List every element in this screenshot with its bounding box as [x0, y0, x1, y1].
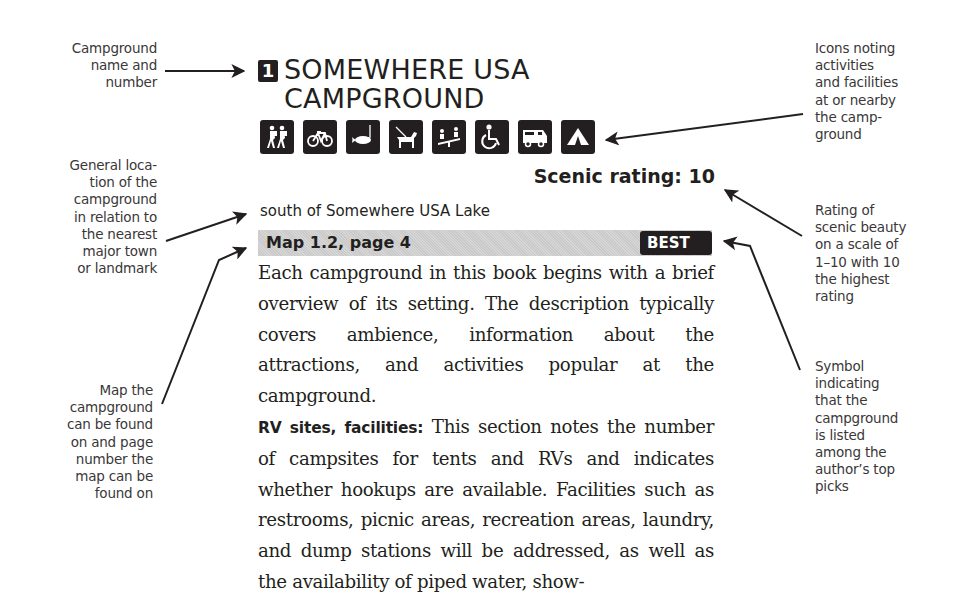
callout-campground-name: Campground name and number [72, 40, 157, 92]
callout-line: ground [815, 126, 898, 143]
map-reference: Map 1.2, page 4 [266, 233, 411, 252]
callout-line: activities [815, 57, 898, 74]
arrow-map [162, 248, 246, 404]
callout-line: or landmark [70, 260, 157, 277]
best-label: BEST [647, 234, 690, 252]
callout-line: major town [70, 243, 157, 260]
facilities-label: RV sites, facilities: [258, 419, 423, 437]
callout-line: Icons noting [815, 40, 898, 57]
callout-line: is listed [815, 427, 898, 444]
callout-line: indicating [815, 375, 898, 392]
general-location: south of Somewhere USA Lake [260, 202, 490, 220]
callout-line: in relation to [70, 209, 157, 226]
callout-line: and facilities [815, 74, 898, 91]
arrow-location [166, 214, 246, 241]
callout-scenic-rating: Rating of scenic beauty on a scale of 1–… [815, 202, 906, 305]
callout-line: the nearest [70, 226, 157, 243]
map-reference-bar: Map 1.2, page 4 BEST [258, 230, 712, 256]
crescent-moon-icon [691, 235, 705, 251]
callout-general-location: General loca- tion of the campground in … [70, 157, 157, 277]
wheelchair-icon [475, 120, 509, 154]
callout-line: number the [67, 451, 153, 468]
callout-line: campground [67, 399, 153, 416]
facilities-paragraph: RV sites, facilities: This section notes… [258, 412, 714, 598]
activity-icons [260, 120, 595, 154]
callout-line: at or nearby [815, 92, 898, 109]
pets-icon [389, 120, 423, 154]
rv-icon [518, 120, 552, 154]
playground-icon [432, 120, 466, 154]
callout-line: can be found [67, 416, 153, 433]
callout-line: that the [815, 392, 898, 409]
fishing-icon [346, 120, 380, 154]
biking-icon [303, 120, 337, 154]
title-line-2: CAMPGROUND [258, 84, 530, 113]
callout-line: campground [70, 191, 157, 208]
callout-line: author’s top [815, 461, 898, 478]
scenic-rating: Scenic rating: 10 [534, 165, 715, 187]
facilities-text: This section notes the number of campsit… [258, 416, 714, 592]
callout-line: number [72, 74, 157, 91]
arrow-best [724, 241, 800, 370]
callout-line: Map the [67, 382, 153, 399]
campground-number-badge: 1 [258, 60, 278, 82]
callout-icons: Icons noting activities and facilities a… [815, 40, 898, 143]
callout-line: the camp- [815, 109, 898, 126]
callout-line: the highest [815, 271, 906, 288]
callout-line: Campground [72, 40, 157, 57]
callout-best-symbol: Symbol indicating that the campground is… [815, 358, 898, 496]
arrow-rating [725, 190, 802, 236]
callout-line: campground [815, 410, 898, 427]
title-line-1: SOMEWHERE USA [284, 54, 530, 85]
callout-line: General loca- [70, 157, 157, 174]
campground-title: 1SOMEWHERE USA CAMPGROUND [258, 55, 530, 113]
callout-line: among the [815, 444, 898, 461]
description-body: Each campground in this book begins with… [258, 258, 714, 598]
callout-line: on a scale of [815, 236, 906, 253]
callout-line: found on [67, 485, 153, 502]
arrow-icons [606, 114, 803, 140]
callout-line: 1–10 with 10 [815, 254, 906, 271]
callout-line: rating [815, 288, 906, 305]
callout-line: picks [815, 478, 898, 495]
callout-line: scenic beauty [815, 219, 906, 236]
callout-line: name and [72, 57, 157, 74]
callout-map-page: Map the campground can be found on and p… [67, 382, 153, 502]
callout-line: Rating of [815, 202, 906, 219]
overview-paragraph: Each campground in this book begins with… [258, 258, 714, 412]
callout-line: Symbol [815, 358, 898, 375]
callout-line: on and page [67, 434, 153, 451]
best-badge: BEST [640, 231, 712, 255]
tent-icon [561, 120, 595, 154]
callout-line: map can be [67, 468, 153, 485]
callout-line: tion of the [70, 174, 157, 191]
hiking-icon [260, 120, 294, 154]
